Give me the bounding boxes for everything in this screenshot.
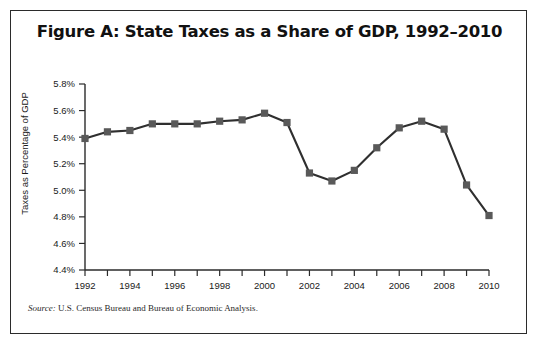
y-tick-label: 5.4% (53, 132, 75, 143)
data-point-marker (261, 110, 268, 117)
y-tick-label: 5.6% (53, 105, 75, 116)
series-line (85, 113, 489, 215)
y-tick-label: 5.0% (53, 185, 75, 196)
chart-area: 4.4%4.6%4.8%5.0%5.2%5.4%5.6%5.8% 1992199… (0, 0, 539, 346)
x-axis-ticks: 1992199419961998200020022004200620082010 (74, 270, 499, 291)
data-point-marker (396, 124, 403, 131)
data-point-marker (351, 167, 358, 174)
x-tick-label: 2000 (254, 280, 275, 291)
y-tick-label: 4.8% (53, 211, 75, 222)
data-point-marker (328, 177, 335, 184)
data-point-marker (373, 144, 380, 151)
x-tick-label: 2010 (478, 280, 499, 291)
data-point-marker (306, 169, 313, 176)
data-point-marker (485, 212, 492, 219)
data-point-marker (216, 118, 223, 125)
line-chart: 4.4%4.6%4.8%5.0%5.2%5.4%5.6%5.8% 1992199… (0, 0, 539, 346)
x-tick-label: 1996 (164, 280, 185, 291)
y-tick-label: 4.4% (53, 264, 75, 275)
data-point-marker (171, 120, 178, 127)
data-point-marker (239, 116, 246, 123)
y-tick-label: 5.8% (53, 78, 75, 89)
y-tick-label: 4.6% (53, 238, 75, 249)
data-point-marker (194, 120, 201, 127)
x-tick-label: 2008 (434, 280, 455, 291)
data-point-marker (81, 135, 88, 142)
data-point-marker (463, 181, 470, 188)
source-text: U.S. Census Bureau and Bureau of Economi… (56, 303, 258, 313)
source-note: Source: U.S. Census Bureau and Bureau of… (28, 303, 258, 313)
data-point-marker (149, 120, 156, 127)
y-tick-label: 5.2% (53, 158, 75, 169)
x-tick-label: 1994 (119, 280, 140, 291)
y-axis-ticks: 4.4%4.6%4.8%5.0%5.2%5.4%5.6%5.8% (53, 78, 85, 275)
figure-page: Figure A: State Taxes as a Share of GDP,… (0, 0, 539, 346)
y-axis-label: Taxes as Percentage of GDP (19, 69, 30, 239)
x-tick-label: 2002 (299, 280, 320, 291)
x-tick-label: 1998 (209, 280, 230, 291)
data-point-marker (441, 126, 448, 133)
x-tick-label: 1992 (74, 280, 95, 291)
x-tick-label: 2004 (344, 280, 365, 291)
x-tick-label: 2006 (389, 280, 410, 291)
data-point-marker (418, 118, 425, 125)
source-prefix: Source: (28, 303, 56, 313)
data-point-marker (126, 127, 133, 134)
data-point-marker (104, 128, 111, 135)
data-point-marker (283, 119, 290, 126)
